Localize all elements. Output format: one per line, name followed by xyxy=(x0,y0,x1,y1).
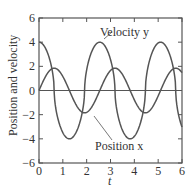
x-tick-label: 0 xyxy=(36,164,42,178)
x-tick-label: 1 xyxy=(60,164,66,178)
y-tick-label: 4 xyxy=(29,35,35,49)
velocity-label: Velocity y xyxy=(100,25,149,39)
x-tick-label: 5 xyxy=(155,164,161,178)
y-tick-label: 2 xyxy=(29,59,35,73)
y-tick-label: −2 xyxy=(22,108,35,122)
x-tick-label: 4 xyxy=(131,164,137,178)
chart: 01234566420−2−4−6 Velocity y Position x … xyxy=(0,0,194,189)
position-label: Position x xyxy=(95,139,143,153)
y-axis-label: Position and velocity xyxy=(6,35,20,136)
y-tick-label: 6 xyxy=(29,11,35,25)
curves xyxy=(39,32,182,140)
x-tick-label: 2 xyxy=(84,164,90,178)
y-tick-label: 0 xyxy=(29,84,35,98)
position-leader xyxy=(94,116,112,140)
x-tick-label: 6 xyxy=(179,164,185,178)
y-tick-label: −6 xyxy=(22,156,35,170)
y-tick-label: −4 xyxy=(22,132,35,146)
